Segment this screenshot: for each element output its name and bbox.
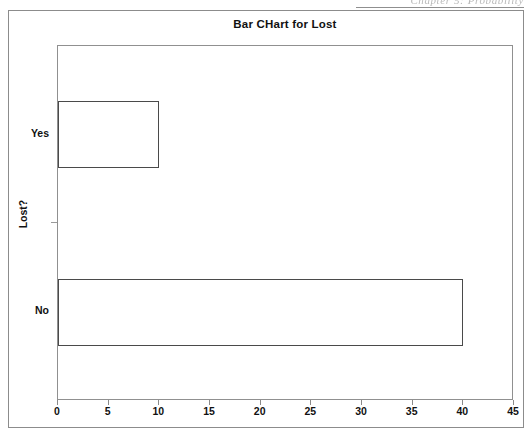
x-tick-label-45: 45: [493, 405, 532, 417]
x-tick-label-5: 5: [88, 405, 128, 417]
running-head-rule: [356, 7, 524, 8]
bar-yes: [58, 101, 159, 168]
plot-area: [57, 45, 513, 400]
x-tick-label-25: 25: [290, 405, 330, 417]
chart-title: Bar CHart for Lost: [57, 18, 513, 30]
figure-page: Chapter 5: Probability Bar CHart for Los…: [0, 0, 532, 435]
x-tick-label-35: 35: [392, 405, 432, 417]
x-tick-label-30: 30: [341, 405, 381, 417]
x-tick-label-40: 40: [442, 405, 482, 417]
x-tick-label-15: 15: [189, 405, 229, 417]
y-tick-label-yes: Yes: [5, 127, 49, 139]
x-tick-label-10: 10: [138, 405, 178, 417]
bar-no: [58, 279, 463, 346]
y-axis-tick-labels: YesNo: [0, 0, 49, 435]
x-tick-label-20: 20: [240, 405, 280, 417]
y-tick-label-no: No: [5, 304, 49, 316]
x-tick-label-0: 0: [37, 405, 77, 417]
